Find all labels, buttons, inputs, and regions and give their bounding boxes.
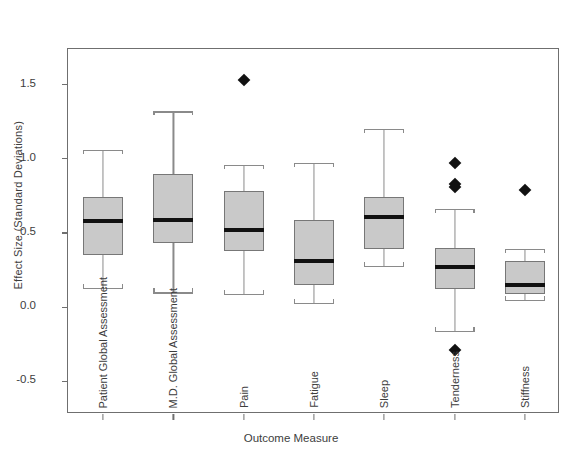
whisker-cap-tick	[263, 290, 264, 294]
box-iqr[interactable]	[294, 220, 334, 285]
x-axis-tick-mark	[454, 414, 455, 420]
plot-area: 1.51.00.50.0-0.5Patient Global Assessmen…	[67, 48, 559, 413]
whisker-cap-tick	[153, 111, 154, 115]
upper-whisker-line	[384, 129, 385, 197]
whisker-cap-tick	[122, 284, 123, 288]
whisker-cap-tick	[294, 299, 295, 303]
whisker-cap-tick	[435, 327, 436, 331]
whisker-cap-tick	[403, 262, 404, 266]
boxplot-group[interactable]: Patient Global Assessment	[68, 49, 138, 412]
y-axis-tick-label: 1.5	[20, 77, 36, 89]
median-line	[364, 215, 404, 219]
upper-whisker-cap	[294, 163, 334, 164]
lower-whisker-cap	[435, 331, 475, 332]
whisker-cap-tick	[544, 249, 545, 253]
whisker-cap-tick	[505, 249, 506, 253]
x-axis-category-label: Fatigue	[308, 371, 320, 408]
whisker-cap-tick	[83, 150, 84, 154]
whisker-cap-tick	[333, 299, 334, 303]
whisker-cap-tick	[192, 111, 193, 115]
box-iqr[interactable]	[505, 261, 545, 294]
upper-whisker-cap	[153, 111, 193, 112]
whisker-cap-tick	[435, 209, 436, 213]
lower-whisker-line	[313, 285, 314, 303]
whisker-cap-tick	[192, 288, 193, 292]
whisker-cap-tick	[364, 129, 365, 133]
y-axis-label: Effect Size (Standard Deviations)	[12, 121, 24, 289]
median-line	[153, 218, 193, 222]
x-axis-category-label: Pain	[238, 386, 250, 408]
median-line	[435, 265, 475, 269]
box-iqr[interactable]	[83, 197, 123, 255]
whisker-cap-tick	[473, 209, 474, 213]
x-axis-category-label: Patient Global Assessment	[97, 277, 109, 408]
x-axis-tick-mark	[173, 414, 174, 420]
upper-whisker-cap	[224, 165, 264, 166]
upper-whisker-line	[524, 249, 525, 261]
lower-whisker-cap	[364, 266, 404, 267]
box-iqr[interactable]	[224, 191, 264, 250]
boxplot-group[interactable]: Sleep	[349, 49, 419, 412]
x-axis-category-label: Tenderness	[449, 351, 461, 408]
lower-whisker-cap	[505, 300, 545, 301]
x-axis-tick-mark	[524, 414, 525, 420]
upper-whisker-cap	[435, 209, 475, 210]
y-axis-tick-label: 0.5	[20, 225, 36, 237]
upper-whisker-line	[243, 165, 244, 192]
upper-whisker-line	[313, 163, 314, 219]
whisker-cap-tick	[403, 129, 404, 133]
upper-whisker-cap	[364, 129, 404, 130]
lower-whisker-line	[173, 243, 174, 292]
x-axis-tick-mark	[103, 414, 104, 420]
lower-whisker-cap	[224, 294, 264, 295]
upper-whisker-cap	[505, 249, 545, 250]
upper-whisker-line	[103, 150, 104, 197]
whisker-cap-tick	[263, 165, 264, 169]
boxplot-group[interactable]: Tenderness	[419, 49, 489, 412]
y-axis-tick-label: -0.5	[16, 373, 36, 385]
outlier-marker[interactable]	[237, 74, 250, 87]
lower-whisker-line	[384, 249, 385, 265]
x-axis-category-label: Stiffness	[519, 366, 531, 408]
outlier-marker[interactable]	[448, 157, 461, 170]
whisker-cap-tick	[544, 296, 545, 300]
x-axis-label: Outcome Measure	[0, 432, 582, 444]
box-iqr[interactable]	[364, 197, 404, 249]
y-axis-tick-label: 0.0	[20, 299, 36, 311]
whisker-cap-tick	[153, 288, 154, 292]
whisker-cap-tick	[122, 150, 123, 154]
whisker-cap-tick	[224, 290, 225, 294]
median-line	[83, 219, 123, 223]
upper-whisker-line	[454, 209, 455, 248]
lower-whisker-cap	[294, 303, 334, 304]
box-iqr[interactable]	[153, 174, 193, 244]
y-axis-tick-label: 1.0	[20, 151, 36, 163]
x-axis-tick-mark	[243, 414, 244, 420]
outlier-marker[interactable]	[518, 184, 531, 197]
whisker-cap-tick	[294, 163, 295, 167]
upper-whisker-cap	[83, 150, 123, 151]
boxplot-group[interactable]: Pain	[209, 49, 279, 412]
whisker-cap-tick	[364, 262, 365, 266]
lower-whisker-line	[243, 251, 244, 294]
whisker-cap-tick	[333, 163, 334, 167]
upper-whisker-line	[173, 111, 174, 173]
boxplot-group[interactable]: Stiffness	[490, 49, 560, 412]
x-axis-tick-mark	[384, 414, 385, 420]
median-line	[224, 228, 264, 232]
boxplot-group[interactable]: M.D. Global Assessment	[138, 49, 208, 412]
y-axis-label-container: Effect Size (Standard Deviations)	[8, 40, 28, 370]
median-line	[505, 283, 545, 287]
whisker-cap-tick	[505, 296, 506, 300]
boxplot-group[interactable]: Fatigue	[279, 49, 349, 412]
whisker-cap-tick	[473, 327, 474, 331]
x-axis-tick-mark	[313, 414, 314, 420]
median-line	[294, 259, 334, 263]
whisker-cap-tick	[83, 284, 84, 288]
x-axis-category-label: M.D. Global Assessment	[167, 288, 179, 408]
whisker-cap-tick	[224, 165, 225, 169]
x-axis-category-label: Sleep	[378, 380, 390, 408]
boxplot-figure: Effect Size (Standard Deviations) 1.51.0…	[0, 0, 582, 467]
lower-whisker-line	[454, 289, 455, 331]
